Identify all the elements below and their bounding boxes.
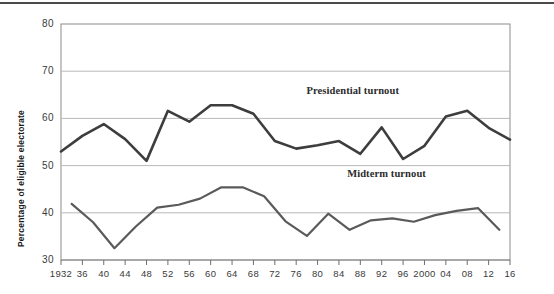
x-tick-label: 16 bbox=[496, 268, 524, 279]
y-tick-label: 70 bbox=[30, 65, 54, 76]
y-tick-label: 40 bbox=[30, 207, 54, 218]
voter-turnout-line-chart bbox=[0, 0, 554, 294]
y-tick-label: 50 bbox=[30, 160, 54, 171]
x-axis-ticks bbox=[61, 260, 510, 265]
y-tick-label: 30 bbox=[30, 254, 54, 265]
presidential-turnout-label: Presidential turnout bbox=[306, 85, 399, 96]
y-tick-label: 80 bbox=[30, 18, 54, 29]
chart-figure: Percentage of eligible electorate 807060… bbox=[0, 0, 554, 294]
y-tick-label: 60 bbox=[30, 112, 54, 123]
midterm-turnout-label: Midterm turnout bbox=[347, 168, 426, 179]
